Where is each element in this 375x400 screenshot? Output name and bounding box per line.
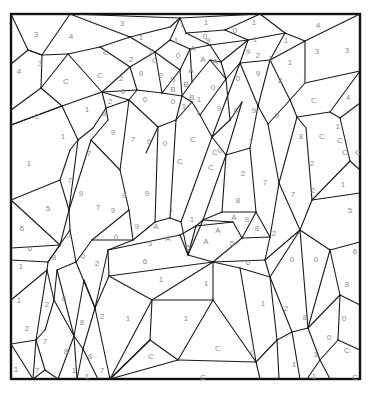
region-label[interactable]: 1 [204, 279, 209, 288]
region-label[interactable]: 1 [17, 296, 22, 305]
region-label[interactable]: 7 [100, 366, 105, 375]
region-label[interactable]: A [153, 222, 159, 231]
region-label[interactable]: 1 [27, 159, 32, 168]
region-label[interactable]: 1 [72, 366, 77, 375]
region-label[interactable]: C [208, 163, 214, 172]
region-label[interactable]: 9 [122, 191, 127, 200]
region-label[interactable]: 3 [120, 19, 125, 28]
region-label[interactable]: 1 [184, 314, 189, 323]
region-label[interactable]: 1 [288, 58, 293, 67]
region-label[interactable]: B [189, 93, 194, 102]
region-label[interactable]: 8 [102, 109, 107, 118]
region-label[interactable]: 1 [341, 180, 346, 189]
region-label[interactable]: 0 [176, 51, 181, 60]
region-label[interactable]: 5 [348, 206, 353, 215]
region-label[interactable]: 5 [148, 239, 153, 248]
region-label[interactable]: 9 [252, 106, 257, 115]
region-label[interactable]: 7 [87, 149, 92, 158]
region-label[interactable]: 7 [68, 176, 73, 185]
region-label[interactable]: 8 [299, 132, 304, 141]
region-label[interactable]: 0 [218, 146, 223, 155]
region-label[interactable]: 3 [34, 30, 39, 39]
region-label[interactable]: 2 [129, 55, 134, 64]
region-label[interactable]: C [319, 132, 325, 141]
region-label[interactable]: 9 [135, 222, 140, 231]
region-label[interactable]: 1 [85, 372, 90, 381]
region-label[interactable]: 2 [108, 97, 113, 106]
region-label[interactable]: A [188, 66, 194, 75]
region-label[interactable]: 7 [131, 135, 136, 144]
region-label[interactable]: 2 [25, 324, 30, 333]
region-label[interactable]: 1 [190, 215, 195, 224]
region-label[interactable]: 4 [17, 67, 22, 76]
region-label[interactable]: A [212, 57, 218, 66]
region-label[interactable]: 2 [95, 259, 100, 268]
region-label[interactable]: C [152, 56, 158, 65]
region-label[interactable]: 1 [174, 36, 179, 45]
region-label[interactable]: 9 [275, 111, 280, 120]
region-label[interactable]: 1 [182, 102, 187, 111]
region-label[interactable]: C [250, 348, 256, 357]
region-label[interactable]: 2 [256, 51, 261, 60]
region-label[interactable]: 2 [241, 169, 246, 178]
region-label[interactable]: 1 [261, 299, 266, 308]
region-label[interactable]: 0 [211, 83, 216, 92]
region-label[interactable]: 8 [245, 215, 250, 224]
region-label[interactable]: 3 [345, 46, 350, 55]
region-label[interactable]: 7 [249, 137, 254, 146]
region-label[interactable]: 3 [38, 59, 43, 68]
region-label[interactable]: 6 [143, 257, 148, 266]
region-label[interactable]: 8 [52, 253, 57, 262]
region-label[interactable]: 2 [284, 304, 289, 313]
region-label[interactable]: C [200, 373, 206, 382]
region-label[interactable]: A [215, 226, 221, 235]
region-label[interactable]: C [311, 96, 317, 105]
region-label[interactable]: 2 [269, 54, 274, 63]
region-label[interactable]: 9 [111, 128, 116, 137]
region-label[interactable]: C [215, 344, 221, 353]
region-label[interactable]: 7 [291, 190, 296, 199]
region-label[interactable]: 6 [20, 224, 25, 233]
region-label[interactable]: 2 [159, 71, 164, 80]
region-label[interactable]: 2 [272, 229, 277, 238]
region-label[interactable]: 8 [62, 294, 67, 303]
region-label[interactable]: C [177, 157, 183, 166]
region-label[interactable]: 0 [114, 233, 119, 242]
region-label[interactable]: 9 [139, 69, 144, 78]
region-label[interactable]: A [231, 213, 237, 222]
region-label[interactable]: 1 [197, 95, 202, 104]
region-label[interactable]: 2 [119, 74, 124, 83]
region-label[interactable]: 2 [45, 300, 50, 309]
region-label[interactable]: 0 [81, 252, 86, 261]
region-label[interactable]: 4 [346, 93, 351, 102]
region-label[interactable]: 1 [284, 36, 289, 45]
region-label[interactable]: 9 [145, 189, 150, 198]
region-label[interactable]: 8 [88, 352, 93, 361]
region-label[interactable]: C [355, 148, 361, 157]
puzzle-board[interactable]: 343111443C1100133CC20C0921292AA921020BBA… [0, 0, 375, 400]
region-label[interactable]: 9 [111, 206, 116, 215]
region-label[interactable]: A [165, 234, 171, 243]
region-label[interactable]: C [63, 77, 69, 86]
region-label[interactable]: 1 [180, 20, 185, 29]
region-label[interactable]: 9 [217, 104, 222, 113]
region-label[interactable]: C [342, 148, 348, 157]
region-label[interactable]: C [352, 373, 358, 382]
region-label[interactable]: C [148, 352, 154, 361]
region-label[interactable]: 1 [312, 372, 317, 381]
region-label[interactable]: 7 [263, 178, 268, 187]
region-label[interactable]: 4 [316, 21, 321, 30]
region-label[interactable]: 1 [252, 18, 257, 27]
region-label[interactable]: 0 [314, 255, 319, 264]
region-label[interactable]: 0 [236, 74, 241, 83]
region-label[interactable]: 2 [310, 159, 315, 168]
region-label[interactable]: 9 [147, 137, 152, 146]
region-label[interactable]: 9 [246, 47, 251, 56]
region-label[interactable]: C [34, 112, 40, 121]
region-label[interactable]: 0 [171, 97, 176, 106]
region-label[interactable]: B [170, 75, 175, 84]
region-label[interactable]: 2 [278, 76, 283, 85]
region-label[interactable]: 1 [253, 35, 258, 44]
region-label[interactable]: C [103, 48, 109, 57]
region-label[interactable]: 5 [230, 239, 235, 248]
